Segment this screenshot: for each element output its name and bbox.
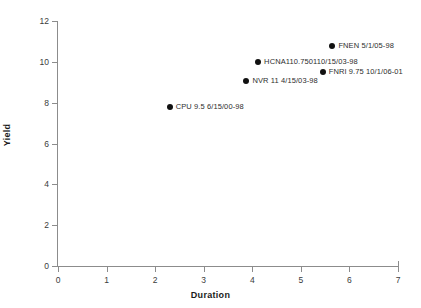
y-tick-label: 4 <box>0 179 49 189</box>
data-point-label: FNRI 9.75 10/1/06-01 <box>329 68 403 76</box>
x-tick-mark <box>349 266 350 272</box>
x-tick-mark <box>398 266 399 272</box>
x-tick-mark <box>252 266 253 272</box>
x-tick-mark <box>107 266 108 272</box>
x-tick-label: 1 <box>87 275 127 285</box>
x-tick-mark <box>155 266 156 272</box>
x-tick-label: 3 <box>184 275 224 285</box>
x-tick-mark <box>301 266 302 272</box>
y-tick-label: 0 <box>0 261 49 271</box>
data-point-label: NVR 11 4/15/03-98 <box>252 77 317 85</box>
x-axis-title: Duration <box>0 290 421 300</box>
y-tick-label: 10 <box>0 57 49 67</box>
data-point-marker[interactable] <box>320 69 326 75</box>
x-tick-label: 0 <box>38 275 78 285</box>
scatter-chart: 024681012 01234567 Duration Yield CPU 9.… <box>0 0 421 308</box>
y-tick-label: 12 <box>0 16 49 26</box>
data-point-label: HCNA110.750110/15/03-98 <box>264 58 358 66</box>
y-axis-title: Yield <box>2 105 12 165</box>
x-tick-label: 6 <box>329 275 369 285</box>
data-point-label: FNEN 5/1/05-98 <box>338 42 394 50</box>
x-tick-label: 5 <box>281 275 321 285</box>
data-point-marker[interactable] <box>255 59 261 65</box>
x-tick-label: 2 <box>135 275 175 285</box>
data-point-marker[interactable] <box>167 104 173 110</box>
x-axis-line <box>57 266 399 267</box>
x-tick-label: 4 <box>232 275 272 285</box>
x-tick-mark <box>204 266 205 272</box>
data-point-marker[interactable] <box>329 43 335 49</box>
y-tick-label: 2 <box>0 220 49 230</box>
data-point-label: CPU 9.5 6/15/00-98 <box>176 103 244 111</box>
x-tick-mark <box>58 266 59 272</box>
x-tick-label: 7 <box>378 275 418 285</box>
